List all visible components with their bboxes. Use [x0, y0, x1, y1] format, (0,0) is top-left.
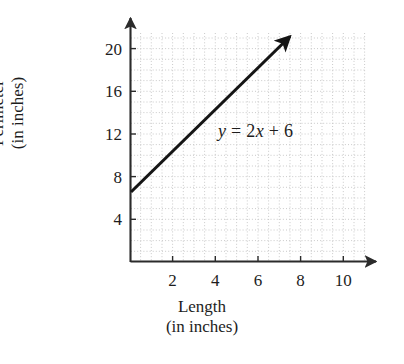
y-axis-title-main: Perimeter — [0, 13, 8, 213]
grid-lines — [131, 33, 365, 262]
equation-part-equals-two: = 2 — [226, 121, 255, 141]
x-tick-label-2: 2 — [168, 272, 177, 289]
x-tick-label-6: 6 — [254, 272, 263, 289]
equation-annotation: y = 2x + 6 — [218, 121, 293, 142]
y-axis-title: Perimeter (in inches) — [0, 13, 28, 213]
y-tick-label-8: 8 — [96, 168, 122, 185]
x-tick-label-10: 10 — [335, 272, 352, 289]
y-tick-label-4: 4 — [96, 211, 122, 228]
graph-figure: 20 16 12 8 4 2 4 6 8 10 y = 2x + 6 Lengt… — [0, 0, 404, 364]
x-axis-title-units: (in inches) — [0, 317, 404, 337]
data-line-series — [131, 37, 290, 193]
equation-part-x: x — [256, 121, 264, 141]
y-tick-label-16: 16 — [96, 83, 122, 100]
x-axis-title: Length (in inches) — [0, 297, 404, 337]
x-tick-label-8: 8 — [296, 272, 305, 289]
x-axis-title-main: Length — [0, 297, 404, 317]
y-tick-label-12: 12 — [96, 126, 122, 143]
y-axis-title-units: (in inches) — [8, 13, 28, 213]
y-tick-label-20: 20 — [96, 40, 122, 57]
x-tick-label-4: 4 — [211, 272, 220, 289]
equation-part-plus-six: + 6 — [264, 121, 293, 141]
